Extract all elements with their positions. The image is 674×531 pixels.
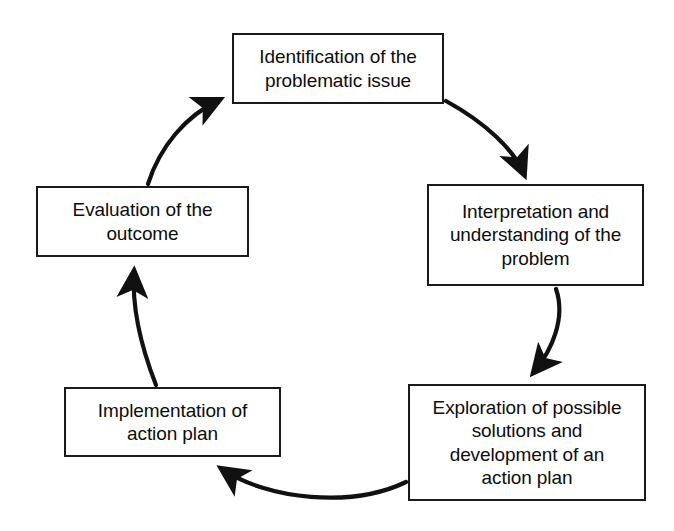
node-exploration[interactable]: Exploration of possible solutions and de… (408, 384, 646, 501)
node-evaluation-label: Evaluation of the outcome (67, 198, 219, 244)
node-implementation[interactable]: Implementation of action plan (64, 387, 281, 457)
node-evaluation[interactable]: Evaluation of the outcome (36, 186, 249, 257)
cycle-diagram: Identification of the problematic issue … (0, 0, 674, 531)
connector-implementation-to-evaluation (134, 272, 156, 385)
node-identification[interactable]: Identification of the problematic issue (232, 33, 444, 104)
node-interpretation-label: Interpretation and understanding of the … (444, 200, 627, 270)
connector-identification-to-interpretation (446, 101, 524, 174)
connector-evaluation-to-identification (148, 100, 219, 184)
connector-exploration-to-implementation (222, 469, 406, 498)
node-implementation-label: Implementation of action plan (92, 399, 253, 445)
connector-interpretation-to-exploration (534, 289, 559, 372)
node-exploration-label: Exploration of possible solutions and de… (427, 396, 628, 489)
node-interpretation[interactable]: Interpretation and understanding of the … (427, 184, 644, 286)
node-identification-label: Identification of the problematic issue (253, 45, 422, 91)
